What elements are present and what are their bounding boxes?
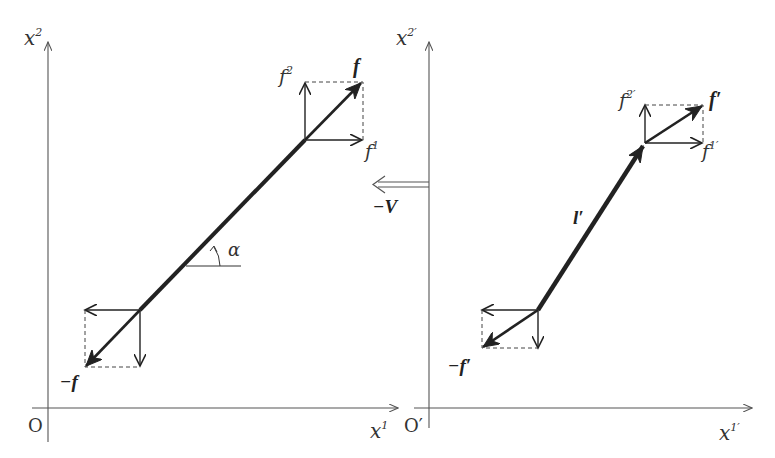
left-horizontal-axis-label: x1 [370,419,388,443]
left-rod [140,140,305,310]
left-origin-label: O [28,415,43,436]
rod-l-prime-arrow [538,146,643,310]
force-minus-f-label: −f [60,371,80,392]
right-origin-label: O′ [404,415,423,436]
force-f2-prime-label: f2′ [617,88,636,111]
right-horizontal-axis-label: x1′ [719,421,740,445]
angle-alpha-label: α [228,239,240,260]
right-vertical-axis-label: x2′ [396,26,417,50]
force-f1-prime-label: f1′ [700,139,719,162]
force-f1-label: f1 [363,139,379,162]
force-f-prime-label: f′ [709,88,721,111]
velocity-label: −V [373,196,399,217]
force-minus-f-prime-arrow [483,310,538,347]
force-minus-f-arrow [86,310,140,366]
velocity-arrow: −V [373,176,429,217]
force-f-label: f [353,55,362,78]
rod-l-prime-label: l′ [573,207,584,228]
double-arrowhead-icon [373,176,385,193]
angle-arc-icon [214,247,220,266]
force-f-prime-arrow [645,106,702,143]
left-frame: x2 x1 O f f2 f1 −f α [24,26,398,443]
force-f-arrow [305,83,361,140]
right-frame: x2′ x1′ O′ f′ f2′ f1′ −f′ l′ [396,26,752,445]
force-f2-label: f2 [277,64,293,87]
left-vertical-axis-label: x2 [24,26,42,50]
relativity-force-diagram: x2 x1 O f f2 f1 −f α −V x2′ x1′ O′ f′ [0,0,775,458]
force-minus-f-prime-label: −f′ [448,355,471,376]
